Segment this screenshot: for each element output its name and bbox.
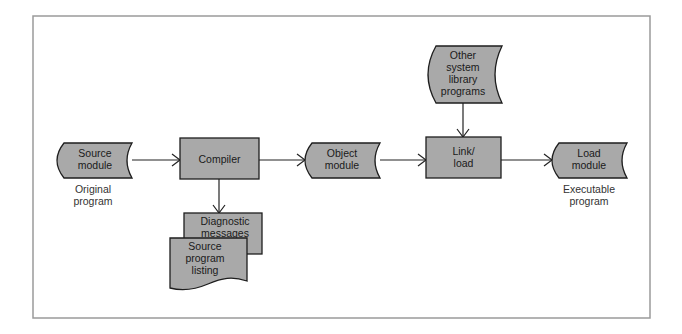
node-label-line: Load	[577, 147, 601, 159]
node-label-line: listing	[192, 264, 219, 276]
node-label-line: module	[78, 159, 113, 171]
node-label-line: programs	[441, 85, 485, 97]
node-label-line: Link/	[452, 145, 474, 157]
node-label-line: library	[449, 73, 478, 85]
node-label-line: Other	[450, 49, 477, 61]
node-label-line: Object	[327, 147, 357, 159]
node-compiler: Compiler	[180, 138, 259, 179]
node-label-line: module	[325, 159, 360, 171]
node-label-line: messages	[201, 227, 249, 239]
node-label-line: Source	[78, 147, 111, 159]
node-label-line: program	[185, 252, 224, 264]
node-other-system-library-programs: Other system library programs	[428, 46, 502, 103]
caption-original-program: Original	[75, 183, 111, 195]
caption-original-program: program	[73, 195, 112, 207]
node-label-line: Compiler	[198, 153, 241, 165]
node-source-module: Source module	[57, 143, 132, 178]
node-label-line: Diagnostic	[200, 215, 249, 227]
node-label-line: load	[454, 157, 474, 169]
caption-executable-program: program	[569, 195, 608, 207]
node-label-line: module	[572, 159, 607, 171]
node-label-line: system	[446, 61, 480, 73]
node-object-module: Object module	[305, 143, 380, 178]
node-link-load: Link/ load	[426, 137, 501, 178]
caption-executable-program: Executable	[563, 183, 615, 195]
node-load-module: Load module	[552, 143, 627, 178]
node-label-line: Source	[188, 240, 221, 252]
compile-link-load-diagram: Source module Original program Compiler …	[0, 0, 682, 334]
